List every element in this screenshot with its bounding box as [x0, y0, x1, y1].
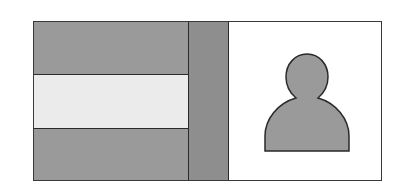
top-band — [34, 22, 188, 75]
left-panel — [34, 22, 189, 180]
middle-band — [34, 75, 188, 129]
right-panel — [229, 22, 381, 180]
middle-strip — [189, 22, 229, 180]
bottom-band — [34, 129, 188, 180]
layout-frame — [33, 21, 382, 181]
person-silhouette-icon — [264, 53, 350, 153]
